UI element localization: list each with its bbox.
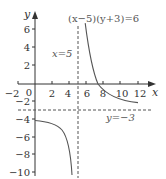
y-tick-label: 4: [24, 42, 30, 53]
x-tick-label: 4: [65, 88, 71, 99]
y-tick-label: −2: [15, 96, 30, 107]
horizontal-asymptote-label: y=−3: [105, 112, 135, 123]
equation-label: (x−5)(y+3)=6: [68, 13, 139, 24]
y-tick-label: −6: [15, 132, 30, 143]
hyperbola-chart: −2 0 2 4 6 8 10 12 6 4 2 −2 −4 −6 −8 −10…: [0, 0, 166, 179]
x-tick-label: 12: [134, 88, 147, 99]
vertical-asymptote-label: x=5: [52, 48, 72, 59]
y-tick-label: 6: [24, 24, 30, 35]
y-axis-arrow-icon: [32, 11, 38, 19]
x-tick-label: 10: [116, 88, 129, 99]
x-axis-label: x: [152, 86, 159, 99]
y-axis-label: y: [23, 8, 31, 21]
y-tick-label: 2: [24, 60, 30, 71]
x-tick-label: 2: [49, 88, 55, 99]
y-tick-label: −10: [9, 167, 30, 178]
curve-left-branch: [35, 121, 72, 176]
y-tick-label: −8: [15, 149, 30, 160]
curve-right-branch: [85, 23, 138, 103]
x-tick-label: 6: [84, 88, 90, 99]
y-tick-label: −4: [15, 114, 30, 125]
